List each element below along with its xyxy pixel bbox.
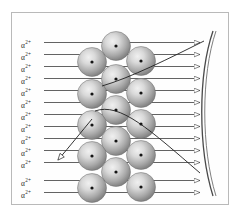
foil-atom <box>78 174 107 203</box>
alpha-label-11: α2+ <box>21 160 30 169</box>
foil-atom <box>102 32 131 61</box>
foil-atom <box>127 173 156 202</box>
alpha-label-2: α2+ <box>21 52 30 61</box>
alpha-label-12: α2+ <box>21 178 30 187</box>
foil-atom <box>78 111 107 140</box>
atom-nucleus <box>90 186 93 189</box>
alpha-label-1: α2+ <box>21 40 30 49</box>
alpha-charge: 2+ <box>25 63 31 69</box>
alpha-label-13: α2+ <box>21 190 30 199</box>
alpha-charge: 2+ <box>25 159 31 165</box>
atom-nucleus <box>114 44 117 47</box>
foil-atom <box>78 80 107 109</box>
alpha-charge: 2+ <box>25 51 31 57</box>
foil-atom <box>127 79 156 108</box>
alpha-charge: 2+ <box>25 39 31 45</box>
foil-atom <box>78 48 107 77</box>
alpha-label-3: α2+ <box>21 64 30 73</box>
alpha-charge: 2+ <box>25 111 31 117</box>
atom-nucleus <box>90 92 93 95</box>
detector-screen-group <box>202 31 216 196</box>
alpha-charge: 2+ <box>25 87 31 93</box>
alpha-label-7: α2+ <box>21 112 30 121</box>
alpha-charge: 2+ <box>25 99 31 105</box>
alpha-charge: 2+ <box>25 147 31 153</box>
atom-nucleus <box>139 91 142 94</box>
alpha-charge: 2+ <box>25 135 31 141</box>
alpha-label-6: α2+ <box>21 100 30 109</box>
atom-nucleus <box>139 185 142 188</box>
atom-nucleus <box>90 154 93 157</box>
atom-nucleus <box>90 60 93 63</box>
alpha-label-9: α2+ <box>21 136 30 145</box>
alpha-charge: 2+ <box>25 189 31 195</box>
atom-nucleus <box>90 123 93 126</box>
atom-nucleus <box>114 170 117 173</box>
alpha-label-4: α2+ <box>21 76 30 85</box>
alpha-charge: 2+ <box>25 123 31 129</box>
alpha-label-5: α2+ <box>21 88 30 97</box>
alpha-label-8: α2+ <box>21 124 30 133</box>
alpha-charge: 2+ <box>25 75 31 81</box>
foil-atom <box>78 142 107 171</box>
detector-screen-outer-edge <box>202 31 213 196</box>
atom-nucleus <box>114 139 117 142</box>
atom-nucleus <box>139 153 142 156</box>
rutherford-scattering-figure: α2+α2+α2+α2+α2+α2+α2+α2+α2+α2+α2+α2+α2+ <box>0 0 242 217</box>
alpha-label-10: α2+ <box>21 148 30 157</box>
diagram-canvas <box>0 0 242 217</box>
atom-nucleus <box>139 59 142 62</box>
alpha-charge: 2+ <box>25 177 31 183</box>
foil-atom <box>127 141 156 170</box>
foil-atom <box>102 158 131 187</box>
atom-nucleus <box>114 77 117 80</box>
metal-foil-atom-lattice <box>78 32 156 203</box>
